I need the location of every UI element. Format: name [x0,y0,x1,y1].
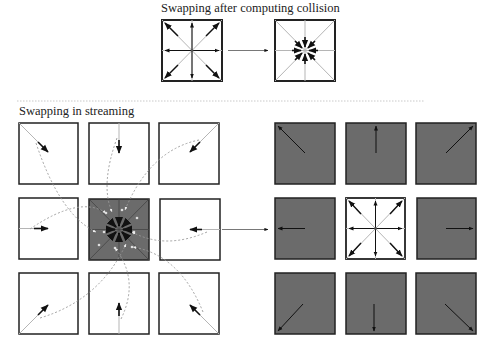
cell-center-swapped [89,199,149,260]
cell-e [160,199,220,260]
cell-sw-streamed [275,273,335,334]
cell-n [89,123,149,184]
cell-n-streamed [346,123,406,184]
cell-ne-streamed [416,123,476,184]
cell-e-streamed [417,198,476,259]
cell-se-streamed [416,273,476,334]
right-grid [275,123,476,334]
cell-ne [159,123,219,184]
cell-se [159,273,219,334]
cell-w [19,198,78,259]
cell-after-swap [275,20,335,81]
left-grid [19,123,220,334]
cell-s-streamed [346,273,406,334]
cell-before-swap [162,20,222,81]
cell-center-outward [346,198,405,259]
cell-nw [19,123,78,184]
cell-s [89,273,149,334]
cell-w-streamed [275,198,335,259]
lattice-diagram [0,0,494,360]
cell-sw [19,273,78,334]
cell-nw-streamed [275,123,335,184]
